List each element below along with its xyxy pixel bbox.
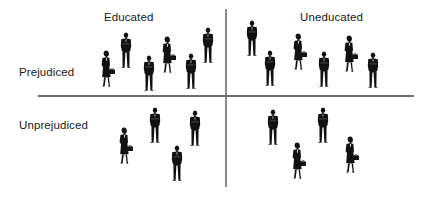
row-label-prejudiced: Prejudiced xyxy=(19,67,74,79)
man-figure-icon xyxy=(143,55,155,91)
man-figure-icon xyxy=(264,50,276,86)
horizontal-axis-divider xyxy=(38,95,414,97)
column-label-educated: Educated xyxy=(104,12,153,24)
man-figure-icon xyxy=(185,53,197,89)
woman-figure-icon xyxy=(290,142,307,180)
vertical-axis-divider xyxy=(225,9,227,187)
man-figure-icon xyxy=(367,52,379,88)
man-figure-icon xyxy=(189,110,201,146)
man-figure-icon xyxy=(246,20,258,56)
man-figure-icon xyxy=(318,51,330,87)
woman-figure-icon xyxy=(343,136,360,174)
column-label-uneducated: Uneducated xyxy=(300,12,363,24)
quadrant-diagram: Educated Uneducated Prejudiced Unprejudi… xyxy=(0,0,424,203)
man-figure-icon xyxy=(120,32,132,68)
man-figure-icon xyxy=(171,145,183,181)
woman-figure-icon xyxy=(160,36,177,74)
row-label-unprejudiced: Unprejudiced xyxy=(19,120,88,132)
man-figure-icon xyxy=(317,107,329,143)
woman-figure-icon xyxy=(117,127,134,165)
woman-figure-icon xyxy=(342,35,359,73)
woman-figure-icon xyxy=(99,50,116,88)
man-figure-icon xyxy=(202,27,214,63)
man-figure-icon xyxy=(149,107,161,143)
woman-figure-icon xyxy=(291,33,308,71)
man-figure-icon xyxy=(267,109,279,145)
